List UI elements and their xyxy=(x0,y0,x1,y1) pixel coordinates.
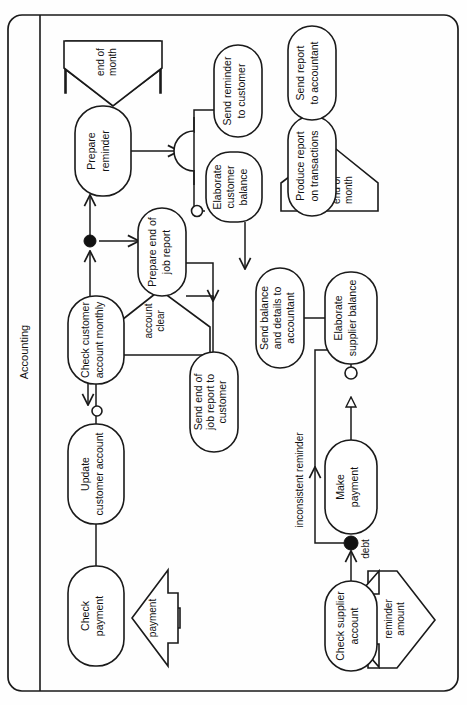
connector-circle-supplier xyxy=(345,367,357,379)
activity-elaborate-supplier-line2: supplier balance xyxy=(346,280,358,357)
activity-update-customer-line1: Update xyxy=(79,457,91,491)
activity-prepare-reminder-line1: Prepare xyxy=(85,132,97,170)
activity-check-payment-line1: Check xyxy=(79,600,91,631)
activity-check-supplier-account[interactable]: Check supplier account xyxy=(325,581,377,671)
activity-send-balance-line1: Send balance xyxy=(258,286,270,350)
connector-circle-update xyxy=(92,406,102,416)
activity-prepare-reminder[interactable]: Prepare reminder xyxy=(75,106,131,196)
signal-eom2-line2: month xyxy=(343,176,354,204)
activity-send-balance-line2: and details to xyxy=(271,287,283,350)
activity-elaborate-supplier-line1: Elaborate xyxy=(332,295,344,340)
diagram-svg: Accounting xyxy=(0,0,467,705)
activity-elaborate-customer-balance[interactable]: Elaborate customer balance xyxy=(206,152,262,222)
activity-send-reminder-line2: to customer xyxy=(235,63,247,118)
activity-send-balance-line3: accountant xyxy=(284,292,296,343)
signal-payment-label: payment xyxy=(147,599,158,638)
activity-send-end-of-job-report[interactable]: Send end of job report to customer xyxy=(190,352,238,452)
activity-diagram-canvas: Accounting xyxy=(0,0,467,705)
activity-send-reminder-line1: Send reminder xyxy=(221,56,233,125)
activity-elaborate-customer-line3: balance xyxy=(237,168,249,205)
activity-send-report-line1: Send report xyxy=(294,45,306,100)
signal-reminderamount-line2: amount xyxy=(395,602,406,636)
signal-accountclear-line2: clear xyxy=(155,309,166,331)
activity-send-report-to-accountant[interactable]: Send report to accountant xyxy=(288,26,336,120)
activity-prepare-reminder-line2: reminder xyxy=(99,130,111,172)
activity-update-customer-account[interactable]: Update customer account xyxy=(68,424,124,524)
activity-send-reminder-to-customer[interactable]: Send reminder to customer xyxy=(214,45,262,137)
activity-make-payment[interactable]: Make payment xyxy=(325,440,377,534)
edge-prepareendjob-right xyxy=(186,296,213,300)
activity-update-customer-line2: customer account xyxy=(93,432,105,515)
signal-reminderamount-line1: reminder xyxy=(383,599,394,639)
activity-send-balance-and-details[interactable]: Send balance and details to accountant xyxy=(256,268,304,368)
signal-end-of-month-1: end of month xyxy=(64,41,162,106)
edge-branch-sendreminder xyxy=(194,110,214,133)
signal-eom1-line2: month xyxy=(107,48,118,76)
activity-send-end-job-line2: job report to xyxy=(204,374,216,431)
activity-make-payment-line2: payment xyxy=(348,467,360,507)
activity-produce-report-on-transactions[interactable]: Produce report on transactions xyxy=(288,116,336,216)
activity-prepare-end-of-job-report[interactable]: Prepare end of job report xyxy=(138,208,186,296)
activity-check-supplier-line2: account xyxy=(348,608,360,645)
activity-elaborate-customer-line2: customer xyxy=(224,165,236,209)
activity-prepare-end-job-line1: Prepare end of xyxy=(146,217,158,287)
activity-check-payment-line2: payment xyxy=(93,596,105,636)
activity-produce-report-line2: on transactions xyxy=(308,130,320,201)
edge-label-inconsistent-reminder: inconsistent reminder xyxy=(294,432,305,528)
activity-prepare-end-job-line2: job report xyxy=(160,230,172,275)
activity-produce-report-line1: Produce report xyxy=(294,131,306,201)
activity-make-payment-line1: Make xyxy=(334,474,346,500)
activity-send-report-line2: to accountant xyxy=(308,41,320,104)
activity-check-customer-line2: account monthly xyxy=(93,301,105,378)
signal-accountclear-line1: account xyxy=(143,303,154,338)
activity-check-customer-line1: Check customer xyxy=(79,302,91,378)
signal-account-clear: account clear xyxy=(113,290,210,355)
junction-customer xyxy=(84,235,96,247)
junction-debt xyxy=(344,536,358,550)
activity-send-end-job-line1: Send end of xyxy=(192,374,204,431)
activity-elaborate-supplier-balance[interactable]: Elaborate supplier balance xyxy=(325,272,377,364)
signal-payment: payment xyxy=(132,570,180,666)
edge-label-debt: debt xyxy=(360,539,371,559)
activity-check-supplier-line1: Check supplier xyxy=(334,591,346,661)
swimlane-label: Accounting xyxy=(18,325,30,379)
signal-eom1-line1: end of xyxy=(95,48,106,76)
activity-check-payment[interactable]: Check payment xyxy=(68,566,124,666)
activity-layer: Check payment Update customer account Ch… xyxy=(68,26,377,671)
activity-send-end-job-line3: customer xyxy=(216,380,228,424)
activity-check-customer-account-monthly[interactable]: Check customer account monthly xyxy=(68,296,124,384)
branch-node xyxy=(174,117,194,185)
activity-elaborate-customer-line1: Elaborate xyxy=(211,164,223,209)
connector-circle-elaborate xyxy=(192,206,203,217)
